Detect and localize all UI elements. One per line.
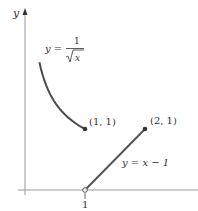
annotation-1-1: (1, 1): [89, 116, 116, 127]
annotation-2-1: (2, 1): [150, 115, 177, 126]
curve-inverse-sqrt: [39, 62, 85, 129]
y-axis-arrow-icon: [23, 8, 28, 15]
curve-label-denominator: x: [75, 53, 80, 63]
open-point-1-0: [83, 188, 88, 193]
curve-label-numerator: 1: [74, 36, 80, 46]
curve-label-lhs: y =: [44, 43, 62, 54]
line-label: y = x − 1: [121, 157, 169, 168]
closed-point-2-1: [143, 127, 148, 132]
x-tick-label-1: 1: [82, 199, 88, 210]
y-axis-label: y: [12, 7, 20, 20]
chart: y 1 y = 1 x (1, 1) (2, 1) y = x − 1: [0, 0, 198, 211]
closed-point-1-1: [83, 127, 88, 132]
